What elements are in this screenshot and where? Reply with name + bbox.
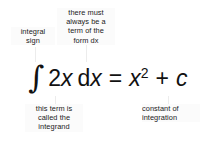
equals-sign: =: [109, 63, 122, 93]
annotation-integral-sign: integral sign: [11, 27, 55, 45]
integral-annotation-figure: integral sign there must always be a ter…: [0, 0, 205, 150]
variable-x: x: [61, 63, 73, 93]
constant-c: c: [176, 63, 188, 93]
result-exponent-2: 2: [141, 58, 149, 88]
annotation-constant-of-integration: constant of integration: [142, 104, 200, 122]
equation-expression: ∫2xdx=x2+c: [28, 60, 188, 94]
annotation-dx-term: there must always be a term of the form …: [57, 8, 115, 45]
plus-sign: +: [155, 63, 168, 93]
integral-symbol: ∫: [28, 62, 44, 93]
differential-variable-x: x: [90, 63, 102, 93]
result-variable-x: x: [129, 63, 141, 93]
annotation-integrand: this term is called the integrand: [25, 104, 83, 132]
differential-d: d: [77, 63, 90, 93]
coefficient-2: 2: [48, 63, 61, 93]
